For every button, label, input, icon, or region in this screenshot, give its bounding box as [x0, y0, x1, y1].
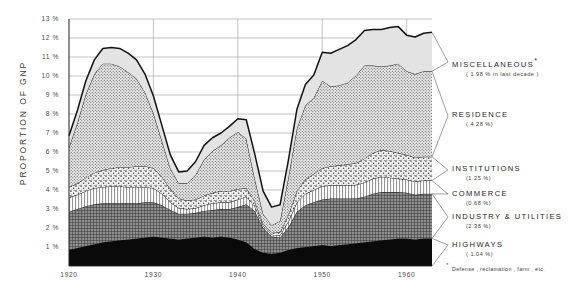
y-tick-label: 11 %	[33, 53, 59, 60]
legend-label-highways: HIGHWAYS	[452, 240, 503, 249]
legend-label-miscellaneous: MISCELLANEOUS*	[452, 57, 539, 69]
legend-item-highways[interactable]: HIGHWAYS ( 1.04 %)	[452, 240, 503, 257]
y-tick-label: 13 %	[33, 15, 59, 22]
x-tick-label: 1930	[136, 271, 170, 278]
y-tick-label: 8 %	[33, 110, 59, 117]
x-tick-label: 1960	[390, 271, 424, 278]
y-tick-label: 12 %	[33, 34, 59, 41]
legend-label-industry-utilities: INDUSTRY & UTILITIES	[452, 212, 562, 221]
chart-figure: PROPORTION OF GNP	[0, 0, 570, 292]
y-axis-title: PROPORTION OF GNP	[18, 38, 28, 208]
y-tick-label: 4 %	[33, 186, 59, 193]
footnote-text: Defense , reclamation , farm , etc.	[452, 266, 545, 272]
legend-leader-lines	[432, 32, 448, 266]
leader-line-institutions	[432, 157, 448, 181]
legend-item-institutions[interactable]: INSTITUTIONS (1.25 %)	[452, 164, 521, 181]
legend-value-industry-utilities: (2.38 %)	[452, 223, 562, 229]
y-tick-label: 6 %	[33, 148, 59, 155]
legend-label-residence: RESIDENCE	[452, 110, 508, 119]
stacked-bands	[69, 27, 432, 266]
y-tick-label: 2 %	[33, 224, 59, 231]
legend-star-icon: *	[534, 57, 538, 64]
footnote-star-icon: *	[446, 262, 448, 268]
legend-item-industry-utilities[interactable]: INDUSTRY & UTILITIES (2.38 %)	[452, 212, 562, 229]
legend-item-residence[interactable]: RESIDENCE ( 4.28 %)	[452, 110, 508, 127]
legend-value-commerce: (0.68 %)	[452, 200, 508, 206]
x-tick-label: 1950	[305, 271, 339, 278]
legend-value-institutions: (1.25 %)	[452, 175, 521, 181]
leader-line-commerce	[432, 181, 448, 195]
legend-item-commerce[interactable]: COMMERCE (0.68 %)	[452, 189, 508, 206]
legend-item-miscellaneous[interactable]: MISCELLANEOUS* ( 1.98 % in last decade )	[452, 57, 539, 77]
legend-value-residence: ( 4.28 %)	[452, 121, 508, 127]
y-tick-label: 7 %	[33, 129, 59, 136]
y-tick-label: 10 %	[33, 72, 59, 79]
y-tick-label: 9 %	[33, 91, 59, 98]
y-tick-label: 5 %	[33, 167, 59, 174]
legend-label-commerce: COMMERCE	[452, 189, 508, 198]
legend-value-highways: ( 1.04 %)	[452, 251, 503, 257]
leader-line-residence	[432, 71, 448, 157]
y-tick-label: 3 %	[33, 205, 59, 212]
leader-line-industry-utilities	[432, 194, 448, 239]
x-tick-label: 1920	[52, 271, 86, 278]
y-tick-label: 1 %	[33, 243, 59, 250]
leader-line-miscellaneous	[432, 32, 448, 71]
legend-label-institutions: INSTITUTIONS	[452, 164, 521, 173]
legend-value-miscellaneous: ( 1.98 % in last decade )	[452, 71, 539, 77]
x-tick-label: 1940	[221, 271, 255, 278]
